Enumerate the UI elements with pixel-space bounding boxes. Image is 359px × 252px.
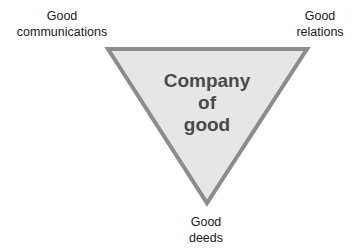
vertex-label-top-right: Good relations: [285, 8, 355, 40]
label-line: Good: [176, 214, 236, 230]
center-line: of: [150, 92, 264, 114]
label-line: relations: [285, 24, 355, 40]
vertex-label-top-left: Good communications: [6, 8, 118, 40]
center-line: good: [150, 114, 264, 136]
center-line: Company: [150, 70, 264, 92]
vertex-label-bottom: Good deeds: [176, 214, 236, 246]
label-line: deeds: [176, 230, 236, 246]
label-line: Good: [285, 8, 355, 24]
label-line: communications: [6, 24, 118, 40]
center-label: Company of good: [150, 70, 264, 136]
label-line: Good: [6, 8, 118, 24]
